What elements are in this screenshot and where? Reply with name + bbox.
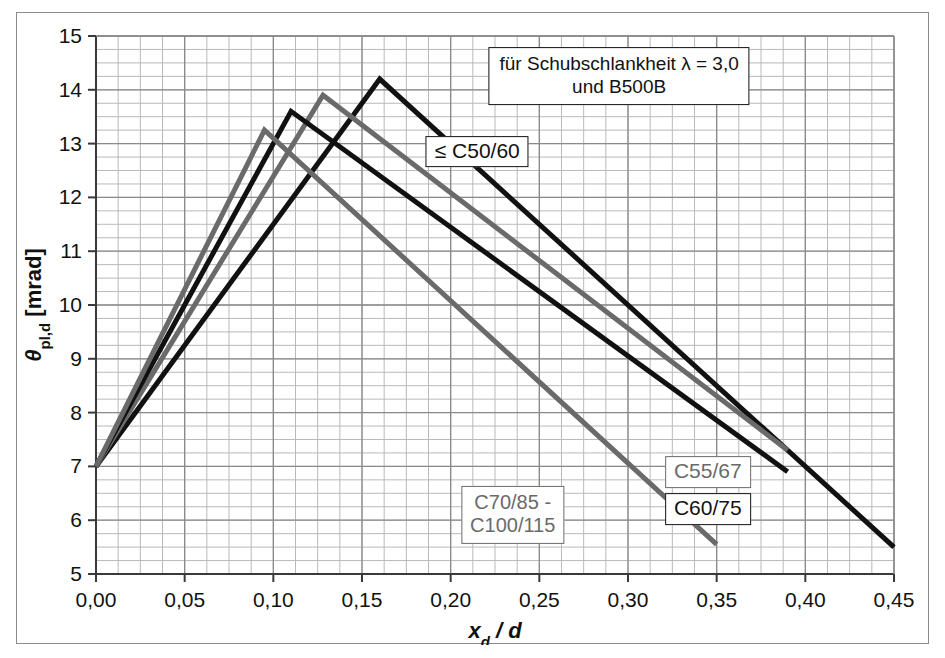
x-tick-label: 0,45: [874, 588, 915, 611]
chart-canvas: 567891011121314150,000,050,100,150,200,2…: [17, 13, 930, 645]
y-tick-label: 10: [59, 293, 82, 316]
x-axis-title: xd / d: [467, 618, 522, 645]
y-tick-label: 9: [70, 347, 82, 370]
x-tick-label: 0,40: [785, 588, 826, 611]
x-tick-label: 0,20: [430, 588, 471, 611]
x-tick-label: 0,00: [76, 588, 117, 611]
y-axis-title: θpl,d [mrad]: [21, 248, 53, 362]
x-tick-label: 0,10: [253, 588, 294, 611]
y-tick-label: 12: [59, 185, 82, 208]
x-tick-label: 0,15: [342, 588, 383, 611]
y-tick-label: 11: [60, 239, 82, 262]
x-tick-label: 0,35: [696, 588, 737, 611]
curve-label-c55-67: C55/67: [665, 456, 751, 488]
y-tick-label: 13: [59, 132, 82, 155]
figure-page: 567891011121314150,000,050,100,150,200,2…: [0, 0, 945, 658]
y-tick-label: 14: [59, 78, 83, 101]
y-tick-label: 8: [70, 401, 82, 424]
x-tick-label: 0,30: [608, 588, 649, 611]
curve-label-c70-85-c100-115: C70/85 - C100/115: [461, 486, 564, 544]
curve-label-c50-60: ≤ C50/60: [426, 136, 529, 168]
annotation-condition-box: für Schubschlankheit λ = 3,0 und B500B: [489, 47, 750, 105]
y-tick-label: 6: [70, 508, 82, 531]
x-tick-label: 0,25: [519, 588, 560, 611]
x-tick-label: 0,05: [164, 588, 205, 611]
y-tick-label: 5: [70, 562, 82, 585]
y-tick-label: 7: [70, 454, 82, 477]
curve-label-c60-75: C60/75: [665, 494, 751, 526]
figure-frame: 567891011121314150,000,050,100,150,200,2…: [16, 12, 929, 644]
y-tick-label: 15: [59, 24, 82, 47]
